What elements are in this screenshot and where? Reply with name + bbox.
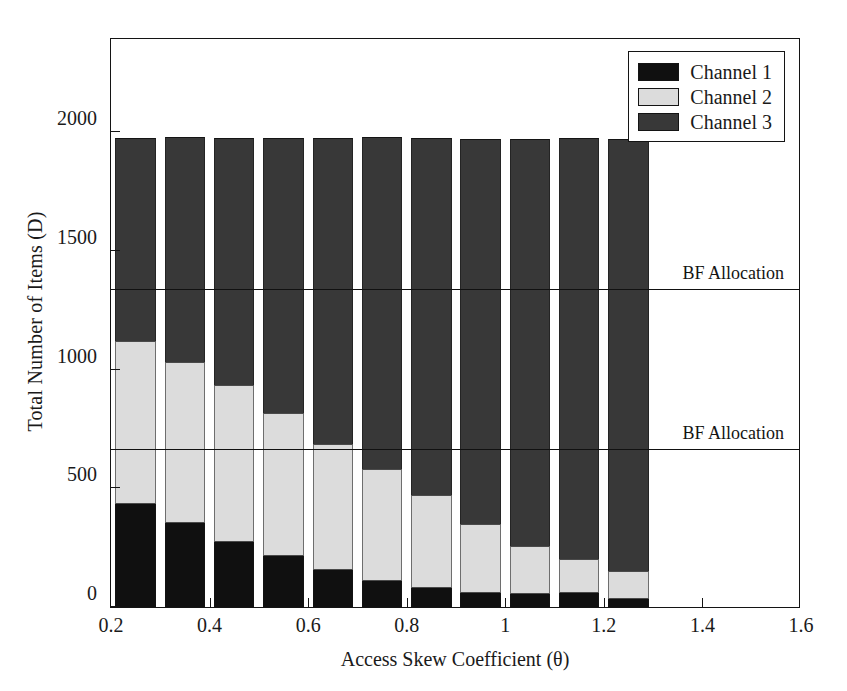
bar-segment-channel-3 — [362, 137, 402, 470]
x-tick-label: 0.2 — [99, 614, 124, 637]
legend-swatch-icon — [638, 63, 679, 81]
bar-group — [214, 37, 254, 607]
x-tick-mark — [702, 598, 703, 607]
bar-segment-channel-1 — [263, 556, 303, 607]
x-tick-mark — [308, 598, 309, 607]
bar-segment-channel-2 — [165, 362, 205, 522]
bar-segment-channel-3 — [559, 138, 599, 559]
bar-group — [165, 37, 205, 607]
bar-segment-channel-3 — [411, 138, 451, 495]
y-tick-label: 2000 — [57, 107, 97, 130]
bar-segment-channel-1 — [165, 523, 205, 607]
bar-segment-channel-1 — [115, 504, 155, 607]
y-tick-mark — [111, 606, 120, 607]
x-tick-mark — [210, 598, 211, 607]
y-tick-label: 500 — [67, 463, 97, 486]
x-tick-label: 1.6 — [789, 614, 814, 637]
x-tick-label: 0.8 — [394, 614, 419, 637]
y-tick-mark — [111, 487, 120, 488]
bar-segment-channel-2 — [362, 469, 402, 581]
bar-group — [510, 37, 550, 607]
bar-segment-channel-3 — [214, 138, 254, 385]
bar-segment-channel-2 — [115, 341, 155, 504]
bar-segment-channel-2 — [313, 444, 353, 570]
y-axis-title: Total Number of Items (D) — [24, 112, 47, 532]
bar-group — [115, 37, 155, 607]
x-tick-mark — [407, 598, 408, 607]
x-tick-label: 1.4 — [690, 614, 715, 637]
bar-segment-channel-1 — [510, 594, 550, 607]
bar-group — [411, 37, 451, 607]
reference-line-label: BF Allocation — [679, 422, 787, 445]
x-tick-mark — [505, 598, 506, 607]
x-tick-label: 0.6 — [296, 614, 321, 637]
y-tick-label: 0 — [87, 582, 97, 605]
reference-line — [111, 289, 799, 290]
legend-swatch-icon — [638, 113, 679, 131]
legend-swatch-icon — [638, 88, 679, 106]
legend-label: Channel 1 — [690, 62, 772, 82]
legend-label: Channel 3 — [690, 112, 772, 132]
legend-item: Channel 1 — [638, 59, 772, 84]
legend-label: Channel 2 — [690, 87, 772, 107]
bar-segment-channel-3 — [510, 139, 550, 546]
bar-segment-channel-2 — [460, 524, 500, 593]
reference-line-label: BF Allocation — [679, 262, 787, 285]
reference-line — [111, 449, 799, 450]
y-tick-label: 1500 — [57, 226, 97, 249]
bar-group — [559, 37, 599, 607]
plot-area: BF AllocationBF Allocation 0500100015002… — [110, 38, 800, 608]
x-tick-mark — [604, 598, 605, 607]
legend-item: Channel 2 — [638, 84, 772, 109]
bar-segment-channel-1 — [460, 593, 500, 607]
bar-segment-channel-1 — [313, 570, 353, 607]
bar-segment-channel-2 — [608, 571, 648, 598]
x-tick-label: 1 — [500, 614, 510, 637]
bar-group — [313, 37, 353, 607]
bar-group — [362, 37, 402, 607]
x-tick-label: 0.4 — [197, 614, 222, 637]
bar-segment-channel-2 — [559, 559, 599, 593]
y-tick-mark — [111, 369, 120, 370]
bar-group — [460, 37, 500, 607]
y-tick-mark — [111, 131, 120, 132]
figure: Total Number of Items (D) Access Skew Co… — [0, 0, 847, 691]
x-axis-title: Access Skew Coefficient (θ) — [110, 648, 800, 671]
bar-segment-channel-1 — [411, 588, 451, 607]
bar-segment-channel-1 — [214, 542, 254, 607]
legend: Channel 1Channel 2Channel 3 — [628, 51, 785, 142]
legend-item: Channel 3 — [638, 109, 772, 134]
bar-segment-channel-1 — [559, 593, 599, 607]
y-tick-label: 1000 — [57, 345, 97, 368]
y-tick-mark — [111, 250, 120, 251]
bar-segment-channel-2 — [263, 413, 303, 556]
bar-segment-channel-2 — [510, 546, 550, 594]
bar-group — [263, 37, 303, 607]
bar-segment-channel-2 — [214, 385, 254, 542]
bar-segment-channel-3 — [263, 138, 303, 414]
x-tick-label: 1.2 — [591, 614, 616, 637]
bar-segment-channel-3 — [460, 139, 500, 524]
bar-segment-channel-2 — [411, 495, 451, 588]
bar-segment-channel-1 — [362, 581, 402, 607]
bar-segment-channel-3 — [608, 139, 648, 571]
bar-segment-channel-3 — [115, 138, 155, 341]
bar-segment-channel-1 — [608, 599, 648, 607]
bar-segment-channel-3 — [165, 137, 205, 363]
bar-segment-channel-3 — [313, 138, 353, 444]
